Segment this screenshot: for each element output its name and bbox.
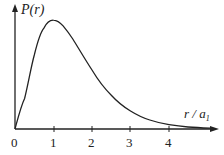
x-axis-arrow-icon (210, 126, 219, 132)
probability-curve (15, 20, 210, 129)
tick-label-0: 0 (11, 136, 18, 149)
x-axis-label-main: r / a (184, 106, 206, 121)
tick-label-4: 4 (165, 136, 172, 149)
radial-probability-chart: P(r) r / a1 0 1 2 3 4 (0, 0, 224, 155)
x-axis-label: r / a1 (184, 107, 210, 123)
y-axis-label: P(r) (21, 3, 44, 17)
tick-label-3: 3 (126, 136, 133, 149)
tick-label-1: 1 (50, 136, 57, 149)
y-axis-arrow-icon (12, 4, 18, 12)
x-axis-label-subscript: 1 (206, 114, 210, 123)
tick-label-2: 2 (88, 136, 95, 149)
plot-area (0, 0, 224, 155)
